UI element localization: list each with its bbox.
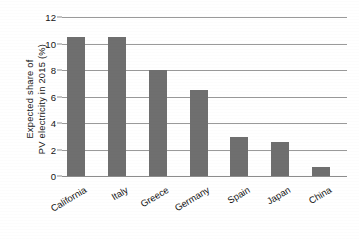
bar: [149, 70, 167, 176]
bar: [67, 37, 85, 176]
y-axis-tick-label: 2: [51, 144, 56, 155]
y-axis-title-line-1: Expected share of: [24, 59, 36, 138]
bar-chart: Expected share of PV electricity in 2015…: [0, 0, 359, 239]
y-axis-tick-label: 12: [45, 12, 56, 23]
y-axis-tick-label: 8: [51, 65, 56, 76]
x-axis-label: Greece: [138, 184, 170, 209]
bar: [230, 137, 248, 176]
bar: [190, 90, 208, 176]
x-axis-label: California: [49, 184, 89, 214]
x-axis-label: China: [306, 184, 333, 206]
x-axis-label: Italy: [110, 184, 130, 202]
bar: [108, 37, 126, 176]
gridline: [62, 176, 347, 177]
y-axis-tick-label: 6: [51, 91, 56, 102]
x-axis-label: Germany: [172, 184, 211, 213]
bar-series: [62, 17, 347, 176]
y-axis-tick-label: 0: [51, 171, 56, 182]
y-axis-tick-label: 10: [45, 38, 56, 49]
x-axis-label: Japan: [265, 184, 293, 207]
y-axis-title-line-2: PV electricity in 2015 (%): [36, 44, 48, 154]
y-axis-tick-label: 4: [51, 118, 56, 129]
plot-area: 024681012: [62, 17, 347, 176]
bar: [312, 167, 330, 176]
x-axis-label: Spain: [226, 184, 252, 206]
bar: [271, 142, 289, 176]
